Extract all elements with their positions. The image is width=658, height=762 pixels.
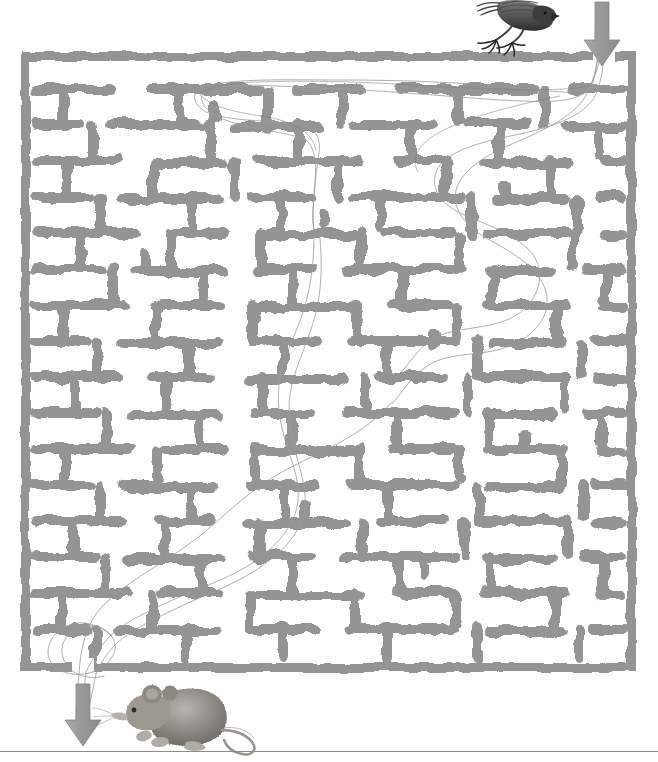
maze-figure: top-right entrance bottom-left exit rapt… (0, 0, 658, 762)
maze-illustration (0, 0, 658, 762)
maze-exit-gap (72, 658, 94, 678)
footer-divider (0, 751, 658, 752)
